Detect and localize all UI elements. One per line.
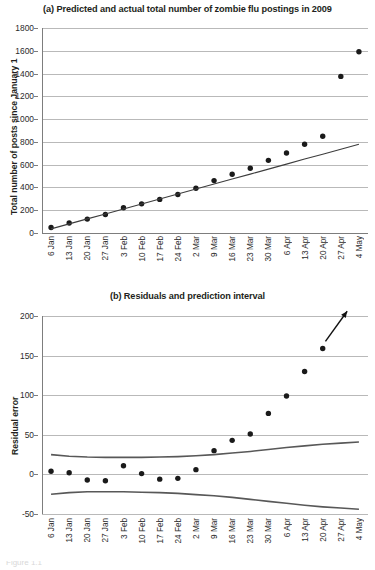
x-tick-label: 3 Feb <box>120 236 129 257</box>
x-tick-label: 17 Feb <box>156 236 165 262</box>
y-tick-mark <box>34 142 38 143</box>
chart-a-data-layer <box>42 28 368 233</box>
x-tick-label: 27 Jan <box>101 518 110 543</box>
x-tick-label: 16 Mar <box>228 236 237 261</box>
x-tick-label: 13 Jan <box>65 518 74 543</box>
x-tick-label: 20 Jan <box>83 518 92 543</box>
x-tick-label: 10 Feb <box>138 518 147 544</box>
data-point <box>284 150 289 155</box>
data-point <box>356 49 361 54</box>
series-line <box>51 442 359 457</box>
data-point <box>248 166 253 171</box>
x-tick-label: 30 Mar <box>264 518 273 543</box>
x-tick-label: 24 Feb <box>174 518 183 544</box>
x-tick-label: 16 Mar <box>228 518 237 543</box>
x-tick-label: 6 Jan <box>47 518 56 538</box>
x-tick-label: 3 Feb <box>120 518 129 539</box>
y-tick-mark <box>34 51 38 52</box>
x-tick-label: 23 Mar <box>246 236 255 261</box>
data-point <box>302 369 307 374</box>
data-point <box>229 172 234 177</box>
chart-b-title: (b) Residuals and prediction interval <box>0 291 375 301</box>
data-point <box>266 411 271 416</box>
x-tick-label: 20 Apr <box>319 518 328 542</box>
x-tick-label: 6 Jan <box>47 236 56 256</box>
x-tick-label: 2 Mar <box>192 236 201 257</box>
x-tick-label: 2 Mar <box>192 518 201 539</box>
y-tick-mark <box>34 96 38 97</box>
figure-container: (a) Predicted and actual total number of… <box>0 0 375 570</box>
data-point <box>338 74 343 79</box>
data-point <box>320 134 325 139</box>
chart-b-plot-area <box>42 316 368 514</box>
y-tick-mark <box>34 233 38 234</box>
x-tick-label: 10 Feb <box>138 236 147 262</box>
x-tick-label: 27 Jan <box>101 236 110 261</box>
chart-panel-a: (a) Predicted and actual total number of… <box>0 0 375 290</box>
figure-caption-strip: Figure 1.1 <box>0 561 375 570</box>
x-tick-label: 6 Apr <box>283 518 292 537</box>
x-tick-label: 4 May <box>355 236 364 258</box>
y-tick-mark <box>34 316 38 317</box>
x-tick-label: 20 Apr <box>319 236 328 260</box>
data-point <box>157 476 162 481</box>
data-point <box>139 471 144 476</box>
y-tick-label: -50 <box>22 509 34 519</box>
y-tick-label: 50 <box>25 430 34 440</box>
y-tick-mark <box>34 356 38 357</box>
data-point <box>248 431 253 436</box>
x-tick-label: 9 Mar <box>210 518 219 539</box>
data-point <box>175 476 180 481</box>
data-point <box>48 469 53 474</box>
x-tick-label: 13 Jan <box>65 236 74 261</box>
figure-caption: Figure 1.1 <box>6 561 42 567</box>
data-point <box>193 467 198 472</box>
x-tick-label: 23 Mar <box>246 518 255 543</box>
data-point <box>211 178 216 183</box>
x-tick-label: 24 Feb <box>174 236 183 262</box>
y-tick-mark <box>34 514 38 515</box>
x-tick-label: 20 Jan <box>83 236 92 261</box>
y-tick-mark <box>34 28 38 29</box>
x-tick-label: 13 Apr <box>301 518 310 542</box>
y-tick-mark <box>34 119 38 120</box>
chart-b-data-layer <box>42 316 368 514</box>
chart-a-x-axis-line <box>42 233 368 234</box>
x-tick-label: 9 Mar <box>210 236 219 257</box>
x-tick-label: 30 Mar <box>264 236 273 261</box>
y-tick-mark <box>34 435 38 436</box>
chart-a-title: (a) Predicted and actual total number of… <box>0 4 375 14</box>
y-tick-mark <box>34 474 38 475</box>
x-tick-label: 27 Apr <box>337 236 346 260</box>
series-line <box>51 144 359 229</box>
y-tick-label: 200 <box>20 311 34 321</box>
data-point <box>121 463 126 468</box>
y-tick-mark <box>34 210 38 211</box>
x-tick-label: 6 Apr <box>283 236 292 255</box>
chart-a-plot-area <box>42 28 368 233</box>
x-tick-label: 13 Apr <box>301 236 310 260</box>
data-point <box>302 142 307 147</box>
data-point <box>229 438 234 443</box>
x-tick-label: 4 May <box>355 518 364 540</box>
y-tick-label: 100 <box>20 390 34 400</box>
series-line <box>51 492 359 509</box>
y-tick-mark <box>34 187 38 188</box>
data-point <box>103 478 108 483</box>
chart-b-y-tick-labels: -50050100150200 <box>0 0 34 570</box>
data-point <box>66 470 71 475</box>
data-point <box>211 448 216 453</box>
data-point <box>320 346 325 351</box>
y-tick-mark <box>34 165 38 166</box>
y-tick-mark <box>34 74 38 75</box>
data-point <box>284 393 289 398</box>
data-point <box>85 477 90 482</box>
y-tick-mark <box>34 395 38 396</box>
data-point <box>48 225 53 230</box>
x-tick-label: 27 Apr <box>337 518 346 542</box>
data-point <box>266 158 271 163</box>
x-tick-label: 17 Feb <box>156 518 165 544</box>
y-tick-label: 150 <box>20 351 34 361</box>
gridline <box>42 514 368 515</box>
